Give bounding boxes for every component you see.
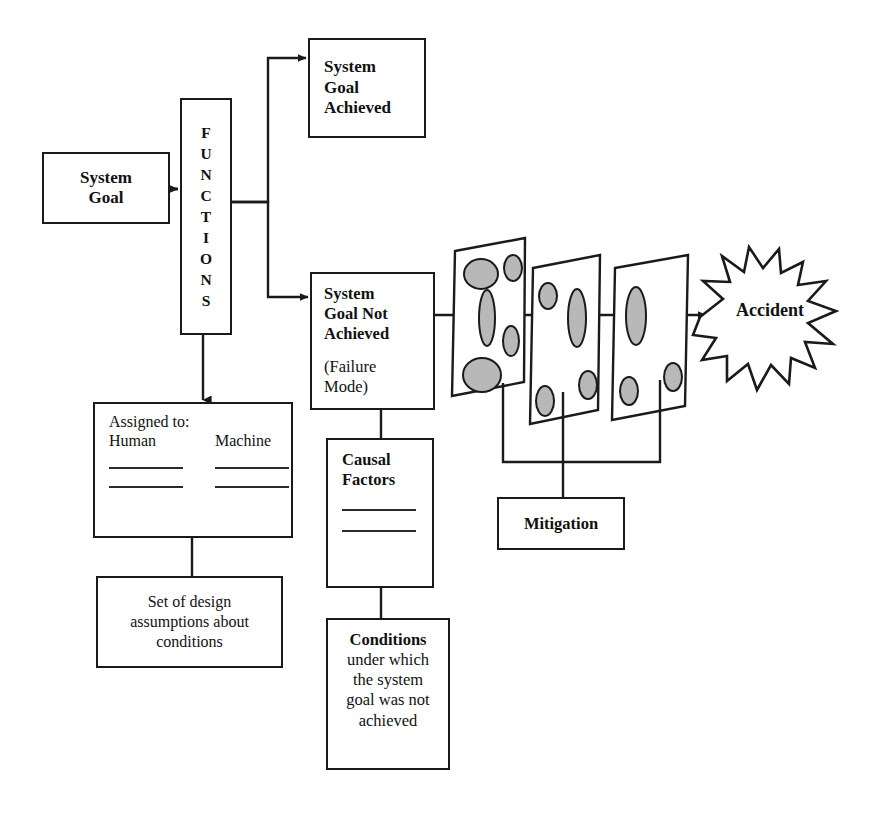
assigned-column-human: Human <box>109 432 185 488</box>
functions-letter: N <box>200 164 211 185</box>
barrier-hole <box>568 289 586 347</box>
barrier-hole <box>463 358 501 392</box>
barrier-hole <box>503 326 519 356</box>
barrier-slice-3 <box>612 255 688 420</box>
goal-not-achieved-line1: System <box>324 284 374 304</box>
assigned-column-label: Human <box>109 432 185 450</box>
assigned-blank-rule[interactable] <box>215 486 289 488</box>
failure-mode-line2: Mode) <box>324 377 368 397</box>
goal-not-achieved-line3: Achieved <box>324 324 389 344</box>
node-system-goal-achieved[interactable]: System Goal Achieved <box>308 38 426 138</box>
node-conditions[interactable]: Conditions under which the system goal w… <box>326 618 450 770</box>
barrier-hole <box>620 377 638 405</box>
functions-letter: U <box>200 143 211 164</box>
node-system-goal-line2: Goal <box>89 188 124 208</box>
functions-letter: N <box>200 269 211 290</box>
connector-functions-branch-down <box>232 202 308 297</box>
node-design-assumptions[interactable]: Set of design assumptions about conditio… <box>96 576 283 668</box>
causal-factors-line2: Factors <box>342 470 432 490</box>
node-assigned-to[interactable]: Assigned to: Human Machine <box>93 402 293 538</box>
functions-letter: S <box>202 290 211 311</box>
functions-letter: O <box>200 248 212 269</box>
functions-letter: I <box>203 227 209 248</box>
barrier-hole <box>664 363 682 391</box>
design-assumptions-line3: conditions <box>156 632 223 652</box>
barrier-slice-2 <box>530 255 600 424</box>
assigned-blank-rule[interactable] <box>109 486 183 488</box>
barrier-hole <box>579 371 597 399</box>
node-system-goal-line1: System <box>80 168 132 188</box>
goal-not-achieved-line2: Goal Not <box>324 304 388 324</box>
barrier-hole <box>479 290 495 346</box>
conditions-line4: achieved <box>359 711 418 731</box>
causal-blank-rule[interactable] <box>342 530 416 532</box>
failure-mode-line1: (Failure <box>324 357 376 377</box>
functions-letter: F <box>201 122 210 143</box>
node-causal-factors[interactable]: Causal Factors <box>326 438 434 588</box>
diagram-canvas: System Goal F U N C T I O N S System Goa… <box>0 0 871 824</box>
assigned-blank-rule[interactable] <box>109 467 183 469</box>
barrier-hole <box>464 259 498 289</box>
goal-achieved-line2: Goal <box>324 78 359 98</box>
node-system-goal-not-achieved[interactable]: System Goal Not Achieved (Failure Mode) <box>310 272 435 410</box>
design-assumptions-line1: Set of design <box>148 592 232 612</box>
assigned-blank-rule[interactable] <box>215 467 289 469</box>
assigned-columns: Human Machine <box>109 432 291 488</box>
conditions-head: Conditions <box>349 630 426 650</box>
barrier-hole <box>626 287 646 345</box>
barrier-slice-1 <box>452 238 525 396</box>
functions-letter: C <box>200 185 211 206</box>
conditions-line1: under which <box>347 650 429 670</box>
node-functions-letters: F U N C T I O N S <box>200 122 212 312</box>
connector-functions-branch-up <box>232 58 306 202</box>
assigned-title: Assigned to: <box>109 413 291 431</box>
conditions-line3: goal was not <box>346 690 429 710</box>
mitigation-label: Mitigation <box>524 514 598 534</box>
assigned-column-label: Machine <box>215 432 291 450</box>
barrier-hole <box>539 283 557 309</box>
functions-letter: T <box>201 206 211 227</box>
goal-achieved-line3: Achieved <box>324 98 391 118</box>
barrier-hole <box>504 255 522 281</box>
accident-starburst <box>693 247 836 390</box>
causal-blank-rule[interactable] <box>342 509 416 511</box>
design-assumptions-line2: assumptions about <box>130 612 249 632</box>
node-system-goal[interactable]: System Goal <box>42 152 170 224</box>
barrier-hole <box>536 386 554 416</box>
node-functions[interactable]: F U N C T I O N S <box>180 98 232 335</box>
assigned-column-machine: Machine <box>215 432 291 488</box>
conditions-line2: the system <box>353 670 423 690</box>
causal-factors-line1: Causal <box>342 450 432 470</box>
goal-achieved-line1: System <box>324 57 376 77</box>
node-mitigation[interactable]: Mitigation <box>497 497 625 550</box>
